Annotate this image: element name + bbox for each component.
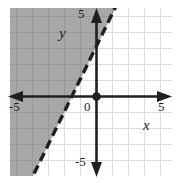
- coordinate-graph-figure: 5 -5 5 -5 0 y x: [0, 0, 176, 183]
- y-axis-tick-label-5: 5: [78, 7, 85, 20]
- origin-label: 0: [84, 100, 91, 113]
- x-axis-name-label: x: [143, 118, 150, 133]
- y-axis-name-label: y: [59, 26, 66, 41]
- origin-point-marker: [92, 92, 101, 101]
- x-axis-tick-label-5: 5: [158, 100, 165, 113]
- plot-canvas: [0, 0, 176, 183]
- y-axis-tick-label-negative-5: -5: [75, 155, 86, 168]
- x-axis-tick-label-negative-5: -5: [9, 100, 20, 113]
